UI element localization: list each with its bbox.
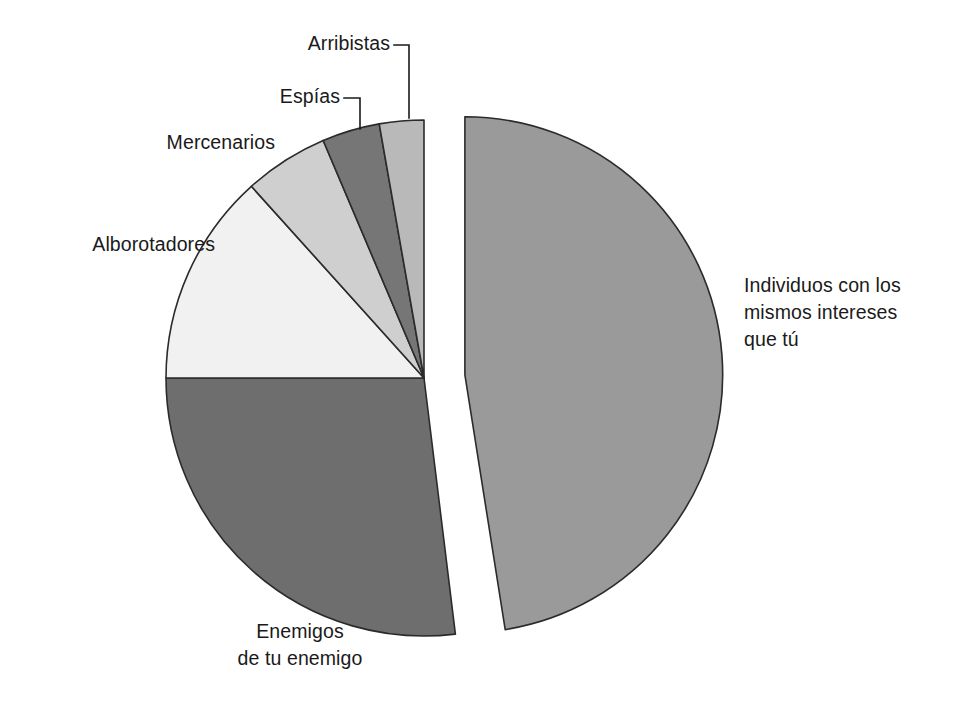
- pie-label-arribistas: Arribistas: [205, 30, 390, 57]
- pie-slice-enemigos[interactable]: [166, 378, 455, 636]
- pie-label-mercenarios: Mercenarios: [95, 129, 275, 156]
- pie-label-alborotadores: Alborotadores: [30, 231, 215, 258]
- pie-chart-svg: [0, 0, 963, 724]
- leader-line-espias: [344, 98, 360, 129]
- leader-line-arribistas: [394, 45, 409, 118]
- pie-label-enemigos: Enemigos de tu enemigo: [175, 618, 425, 672]
- pie-chart-figure: Individuos con los mismos intereses que …: [0, 0, 963, 724]
- pie-label-espias: Espías: [180, 83, 340, 110]
- pie-slice-individuos[interactable]: [465, 117, 723, 630]
- pie-label-individuos: Individuos con los mismos intereses que …: [744, 272, 949, 353]
